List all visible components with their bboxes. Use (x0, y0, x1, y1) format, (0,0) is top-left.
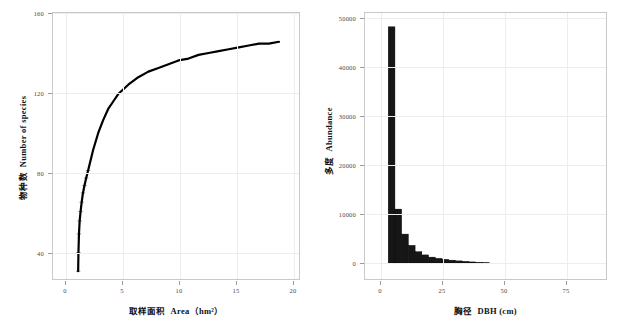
species-area-plot (53, 13, 299, 279)
xtick-mark-right-50 (504, 281, 505, 285)
ytick-label-left-40: 40 (22, 250, 44, 257)
ytick-label-right-10000: 10000 (320, 211, 356, 218)
ytick-mark-right-0 (360, 263, 364, 264)
species-accumulation-curve (78, 42, 279, 271)
xtick-label-left-5: 5 (120, 287, 123, 294)
x-axis-title-right-cjk: 胸径 (454, 306, 473, 316)
ytick-label-left-80: 80 (22, 170, 44, 177)
gridline-y-30000 (365, 116, 606, 117)
gridline-y-10000 (365, 214, 606, 215)
xtick-mark-left-5 (122, 281, 123, 285)
xtick-mark-right-0 (380, 281, 381, 285)
xtick-label-right-75: 75 (563, 287, 570, 294)
ytick-mark-right-20000 (360, 165, 364, 166)
gridline-x-15 (237, 13, 238, 279)
gridline-x-50 (505, 13, 506, 279)
gridline-x-20 (294, 13, 295, 279)
gridline-y-40 (53, 253, 299, 254)
y-axis-title-left-latin: Number of species (18, 96, 28, 168)
gridline-y-160 (53, 13, 299, 14)
xtick-label-left-15: 15 (233, 287, 240, 294)
xtick-label-left-0: 0 (63, 287, 66, 294)
gridline-x-5 (123, 13, 124, 279)
y-axis-title-left: 物种数 Number of species (16, 96, 28, 200)
figure-container: 物种数 Number of species 16 (0, 0, 625, 331)
ytick-label-right-30000: 30000 (320, 113, 356, 120)
xtick-label-right-50: 50 (501, 287, 508, 294)
ytick-mark-left-120 (48, 93, 52, 94)
gridline-y-50000 (365, 18, 606, 19)
gridline-y-40000 (365, 67, 606, 68)
ytick-label-left-160: 160 (22, 10, 44, 17)
species-curve-group (66, 42, 279, 275)
gridline-x-0 (66, 13, 67, 279)
ytick-label-right-50000: 50000 (320, 15, 356, 22)
x-axis-title-left-latin: Area（hm²） (171, 306, 224, 316)
ytick-mark-right-40000 (360, 67, 364, 68)
ytick-mark-right-30000 (360, 116, 364, 117)
xtick-mark-left-0 (65, 281, 66, 285)
gridline-x-0 (381, 13, 382, 279)
xtick-mark-right-25 (442, 281, 443, 285)
gridline-x-25 (443, 13, 444, 279)
xtick-label-left-20: 20 (290, 287, 297, 294)
ytick-mark-left-40 (48, 253, 52, 254)
gridline-x-10 (180, 13, 181, 279)
panel-dbh-abundance: 多度 Abundance (312, 0, 625, 331)
x-axis-title-right-latin: DBH (cm) (478, 306, 517, 316)
plot-area-right (364, 12, 607, 280)
ytick-mark-left-80 (48, 173, 52, 174)
bar-bin-4 (408, 245, 415, 263)
xtick-label-right-0: 0 (378, 287, 381, 294)
gridline-y-20000 (365, 165, 606, 166)
xtick-mark-left-20 (293, 281, 294, 285)
x-axis-title-right: 胸径 DBH (cm) (364, 304, 607, 316)
gridline-y-80 (53, 173, 299, 174)
plot-area-left (52, 12, 300, 280)
xtick-mark-right-75 (566, 281, 567, 285)
ytick-label-right-40000: 40000 (320, 64, 356, 71)
bar-bin-5 (415, 252, 422, 263)
panel-species-area: 物种数 Number of species 16 (0, 0, 312, 331)
bar-bin-2 (395, 209, 402, 263)
x-axis-title-left: 取样面积 Area（hm²） (52, 304, 300, 316)
gridline-x-75 (567, 13, 568, 279)
gridline-y-120 (53, 93, 299, 94)
xtick-mark-left-15 (236, 281, 237, 285)
ytick-label-left-120: 120 (22, 90, 44, 97)
xtick-label-left-10: 10 (176, 287, 183, 294)
ytick-mark-left-160 (48, 13, 52, 14)
gridline-y-0 (365, 263, 606, 264)
ytick-label-right-0: 0 (320, 260, 356, 267)
xtick-mark-left-10 (179, 281, 180, 285)
bar-bin-6 (422, 255, 429, 263)
ytick-label-right-20000: 20000 (320, 162, 356, 169)
xtick-label-right-25: 25 (439, 287, 446, 294)
x-axis-title-left-cjk: 取样面积 (129, 306, 166, 316)
histogram-bars (388, 27, 489, 263)
ytick-mark-right-50000 (360, 18, 364, 19)
ytick-mark-right-10000 (360, 214, 364, 215)
dbh-histogram-plot (365, 13, 606, 279)
bar-bin-3 (402, 234, 409, 263)
bar-bin-1 (388, 27, 395, 263)
